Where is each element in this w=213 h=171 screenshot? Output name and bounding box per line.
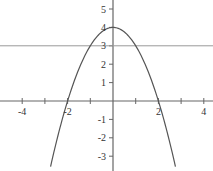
- y-tick-label: -3: [98, 151, 106, 162]
- parabola-plot: -4-224 54321-1-2-3: [0, 0, 213, 171]
- y-tick-label: -2: [98, 132, 106, 143]
- y-tick-label: 4: [101, 22, 106, 33]
- x-tick-label: -2: [63, 106, 71, 117]
- x-axis-labels: -4-224: [18, 106, 206, 117]
- x-tick-label: 4: [201, 106, 206, 117]
- y-axis-labels: 54321-1-2-3: [98, 4, 106, 162]
- y-tick-label: 1: [101, 77, 106, 88]
- y-tick-label: 3: [101, 40, 106, 51]
- x-tick-label: 2: [156, 106, 161, 117]
- y-tick-label: 2: [101, 59, 106, 70]
- y-tick-label: 5: [101, 4, 106, 15]
- x-tick-label: -4: [18, 106, 26, 117]
- y-tick-label: -1: [98, 114, 106, 125]
